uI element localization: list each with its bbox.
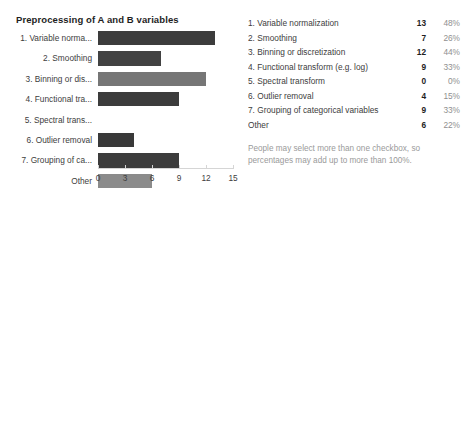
results-row: 3. Binning or discretization1244% <box>248 45 460 60</box>
category-label: 1. Variable norma... <box>20 34 92 42</box>
bar <box>98 153 179 167</box>
results-row-count: 9 <box>400 103 426 118</box>
results-row-count: 6 <box>400 118 426 133</box>
results-row: 2. Smoothing726% <box>248 31 460 46</box>
category-label: 7. Grouping of ca... <box>21 156 92 164</box>
bar-row: 6. Outlier removal <box>98 130 233 150</box>
results-row: 4. Functional transform (e.g. log)933% <box>248 60 460 75</box>
results-row-percent: 44% <box>426 45 460 60</box>
results-row-label: 6. Outlier removal <box>248 89 400 104</box>
survey-question-block-preprocessing: Preprocessing of A and B variables 1. Va… <box>0 0 467 220</box>
results-row: 7. Grouping of categorical variables933% <box>248 103 460 118</box>
x-tick-label: 6 <box>150 173 155 183</box>
results-row-label: 1. Variable normalization <box>248 16 400 31</box>
chart-title-preprocessing: Preprocessing of A and B variables <box>16 14 179 25</box>
results-row-label: 7. Grouping of categorical variables <box>248 103 400 118</box>
tick-mark <box>98 165 99 169</box>
plot-area-preprocessing: 1. Variable norma...2. Smoothing3. Binni… <box>98 28 233 191</box>
bar-rows-preprocessing: 1. Variable norma...2. Smoothing3. Binni… <box>98 28 233 191</box>
results-row: Other622% <box>248 118 460 133</box>
x-tick-label: 15 <box>228 173 237 183</box>
results-row-count: 13 <box>400 16 426 31</box>
bar <box>98 51 161 65</box>
results-rows-preprocessing: 1. Variable normalization1348%2. Smoothi… <box>248 16 460 132</box>
bar <box>98 31 215 45</box>
survey-question-block-feature-extraction: Feature extraction 1. Independence o...2… <box>0 220 467 444</box>
results-row-label: 5. Spectral transform <box>248 74 400 89</box>
results-row: 5. Spectral transform00% <box>248 74 460 89</box>
results-row-percent: 48% <box>426 16 460 31</box>
category-label: 3. Binning or dis... <box>26 75 92 83</box>
bar-chart-preprocessing: 1. Variable norma...2. Smoothing3. Binni… <box>0 28 245 213</box>
results-row-count: 7 <box>400 31 426 46</box>
results-row-count: 12 <box>400 45 426 60</box>
x-axis-ticks-preprocessing: 03691215 <box>98 169 233 185</box>
category-label: Other <box>71 177 92 185</box>
results-row-percent: 22% <box>426 118 460 133</box>
x-tick-label: 9 <box>177 173 182 183</box>
results-row-label: 4. Functional transform (e.g. log) <box>248 60 400 75</box>
bar <box>98 72 206 86</box>
results-row-label: 3. Binning or discretization <box>248 45 400 60</box>
results-table-preprocessing: 1. Variable normalization1348%2. Smoothi… <box>248 16 460 166</box>
results-row-label: Other <box>248 118 400 133</box>
bar-row: 2. Smoothing <box>98 48 233 68</box>
tick-mark <box>125 165 126 169</box>
bar-row: 4. Functional tra... <box>98 89 233 109</box>
bar <box>98 92 179 106</box>
x-tick-label: 0 <box>96 173 101 183</box>
bar-row: 1. Variable norma... <box>98 28 233 48</box>
category-label: 4. Functional tra... <box>26 95 92 103</box>
bar <box>98 133 134 147</box>
category-label: 5. Spectral trans... <box>25 116 92 124</box>
tick-mark <box>179 165 180 169</box>
results-note-preprocessing: People may select more than one checkbox… <box>248 143 453 166</box>
bar-row: 3. Binning or dis... <box>98 69 233 89</box>
results-row-percent: 15% <box>426 89 460 104</box>
results-row-percent: 33% <box>426 60 460 75</box>
bar-row: 5. Spectral trans... <box>98 110 233 130</box>
results-row-count: 0 <box>400 74 426 89</box>
results-row-count: 4 <box>400 89 426 104</box>
tick-mark <box>206 165 207 169</box>
x-tick-label: 12 <box>201 173 210 183</box>
results-row-percent: 26% <box>426 31 460 46</box>
results-row: 6. Outlier removal415% <box>248 89 460 104</box>
category-label: 6. Outlier removal <box>27 136 92 144</box>
results-row-percent: 0% <box>426 74 460 89</box>
results-row-label: 2. Smoothing <box>248 31 400 46</box>
results-row: 1. Variable normalization1348% <box>248 16 460 31</box>
tick-mark <box>152 165 153 169</box>
category-label: 2. Smoothing <box>43 54 92 62</box>
results-row-percent: 33% <box>426 103 460 118</box>
x-tick-label: 3 <box>123 173 128 183</box>
tick-mark <box>233 165 234 169</box>
results-row-count: 9 <box>400 60 426 75</box>
